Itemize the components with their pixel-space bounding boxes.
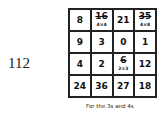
grid-cell: 12 — [134, 53, 156, 75]
grid-cell: 354×8 — [134, 9, 156, 31]
cell-value: 36 — [95, 82, 108, 91]
grid-cell: 9 — [69, 31, 91, 53]
grid-cell: 8 — [69, 9, 91, 31]
cell-value: 8 — [77, 16, 83, 25]
cell-value: 1 — [142, 38, 148, 47]
cell-value: 21 — [117, 16, 130, 25]
grid-cell: 21 — [113, 9, 135, 31]
grid-cell: 4 — [69, 53, 91, 75]
cell-value: 35 — [139, 12, 152, 21]
grid-cell: 3 — [91, 31, 113, 53]
grid-cell: 2 — [91, 53, 113, 75]
cell-value: 12 — [139, 60, 152, 69]
grid-cell: 36 — [91, 75, 113, 97]
number-grid: 8 164×4 21 354×8 9 3 0 1 4 2 62×3 12 24 … — [68, 8, 157, 98]
cell-value: 6 — [120, 56, 126, 65]
grid-cell: 0 — [113, 31, 135, 53]
grid-cell: 164×4 — [91, 9, 113, 31]
grid-cell: 24 — [69, 75, 91, 97]
cell-value: 18 — [139, 82, 152, 91]
grid-cell: 1 — [134, 31, 156, 53]
cell-value: 4 — [77, 60, 83, 69]
cell-value: 3 — [98, 38, 104, 47]
cell-value: 27 — [117, 82, 130, 91]
cell-note: 4×4 — [97, 23, 107, 28]
cell-value: 9 — [77, 38, 83, 47]
cell-value: 16 — [95, 12, 108, 21]
grid-cell: 62×3 — [113, 53, 135, 75]
cell-note: 4×8 — [140, 23, 150, 28]
cell-value: 24 — [74, 82, 87, 91]
cell-value: 0 — [120, 38, 126, 47]
grid-cell: 18 — [134, 75, 156, 97]
page-number: 112 — [8, 55, 30, 72]
caption: For the 3s and 4s — [86, 103, 134, 109]
grid-cell: 27 — [113, 75, 135, 97]
cell-note: 2×3 — [118, 67, 128, 72]
cell-value: 2 — [98, 60, 104, 69]
